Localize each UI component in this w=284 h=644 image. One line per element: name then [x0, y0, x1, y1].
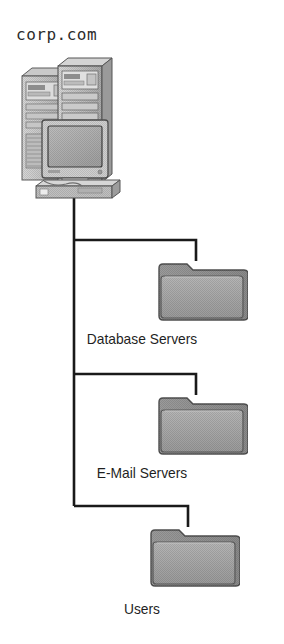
monitor-icon: [42, 120, 108, 183]
folder-label-email-servers: E-Mail Servers: [11, 464, 272, 481]
folder-label-users: Users: [11, 600, 272, 617]
network-diagram: corp.com: [0, 0, 284, 644]
folder-label-database-servers: Database Servers: [11, 330, 272, 347]
keyboard-icon: [36, 180, 120, 198]
folder-node-database-servers[interactable]: [159, 264, 248, 320]
folder-node-users[interactable]: [151, 530, 240, 586]
folder-node-email-servers[interactable]: [159, 398, 248, 454]
diagram-graphics: [0, 0, 284, 644]
server-computer-icon: [22, 58, 120, 198]
